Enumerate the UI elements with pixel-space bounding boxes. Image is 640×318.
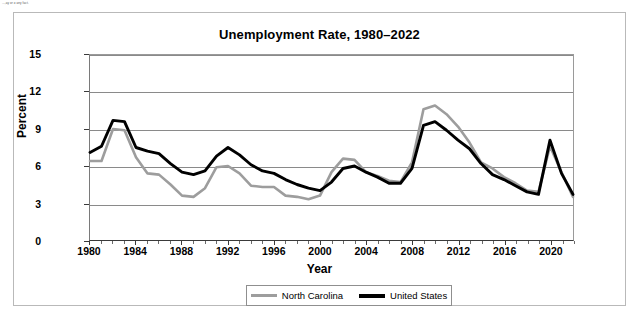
x-tick-label: 2016 (480, 245, 530, 257)
x-tick-mark-minor (401, 241, 402, 244)
x-tick-mark-minor (193, 241, 194, 244)
x-tick-mark-minor (285, 241, 286, 244)
line-united-states (90, 120, 573, 194)
series-lines (90, 55, 573, 240)
x-tick-mark-minor (435, 241, 436, 244)
x-tick-mark-minor (205, 241, 206, 244)
fine-print-note: ...,ay or o any fact. (2, 1, 29, 5)
x-tick-label: 1984 (110, 245, 160, 257)
legend-swatch-united-states (359, 294, 385, 298)
x-tick-label: 1980 (64, 245, 114, 257)
x-tick-mark-minor (470, 241, 471, 244)
x-tick-mark-minor (170, 241, 171, 244)
legend-label-united-states: United States (390, 290, 447, 301)
x-tick-mark-minor (297, 241, 298, 244)
x-tick-mark-minor (574, 241, 575, 244)
x-tick-mark-minor (482, 241, 483, 244)
y-tick-label: 9 (1, 123, 41, 135)
x-tick-label: 1992 (203, 245, 253, 257)
y-tick-label: 3 (1, 198, 41, 210)
legend-item-north-carolina[interactable]: North Carolina (251, 290, 343, 301)
chart-figure-frame: Unemployment Rate, 1980–2022 Percent 036… (13, 12, 626, 306)
legend-label-north-carolina: North Carolina (282, 290, 343, 301)
chart-title: Unemployment Rate, 1980–2022 (14, 27, 625, 42)
x-tick-mark-minor (332, 241, 333, 244)
x-tick-mark-minor (251, 241, 252, 244)
x-tick-label: 2004 (341, 245, 391, 257)
x-tick-mark-minor (124, 241, 125, 244)
x-tick-label: 1996 (249, 245, 299, 257)
plot-area (89, 54, 574, 241)
x-tick-mark-minor (216, 241, 217, 244)
x-tick-mark-minor (343, 241, 344, 244)
x-tick-mark-minor (147, 241, 148, 244)
x-tick-mark-minor (493, 241, 494, 244)
y-tick-label: 0 (1, 235, 41, 247)
y-tick-label: 12 (1, 85, 41, 97)
x-axis-label: Year (14, 262, 625, 276)
x-tick-mark-minor (563, 241, 564, 244)
x-tick-mark-minor (112, 241, 113, 244)
x-tick-label: 2008 (387, 245, 437, 257)
x-tick-mark-minor (528, 241, 529, 244)
x-tick-label: 2000 (295, 245, 345, 257)
y-tick-label: 15 (1, 48, 41, 60)
chart-legend: North Carolina United States (246, 285, 452, 306)
x-tick-label: 1988 (156, 245, 206, 257)
x-tick-mark-minor (424, 241, 425, 244)
y-tick-label: 6 (1, 160, 41, 172)
x-tick-mark-minor (516, 241, 517, 244)
x-tick-mark-minor (158, 241, 159, 244)
line-north-carolina (90, 106, 573, 200)
x-tick-mark-minor (355, 241, 356, 244)
x-tick-mark-minor (447, 241, 448, 244)
legend-item-united-states[interactable]: United States (359, 290, 447, 301)
x-tick-mark-minor (308, 241, 309, 244)
x-tick-mark-minor (378, 241, 379, 244)
x-tick-mark-minor (389, 241, 390, 244)
x-tick-label: 2020 (526, 245, 576, 257)
x-tick-mark-minor (262, 241, 263, 244)
x-tick-mark-minor (539, 241, 540, 244)
x-tick-mark-minor (239, 241, 240, 244)
x-tick-mark-minor (101, 241, 102, 244)
x-tick-label: 2012 (434, 245, 484, 257)
legend-swatch-north-carolina (251, 294, 277, 297)
